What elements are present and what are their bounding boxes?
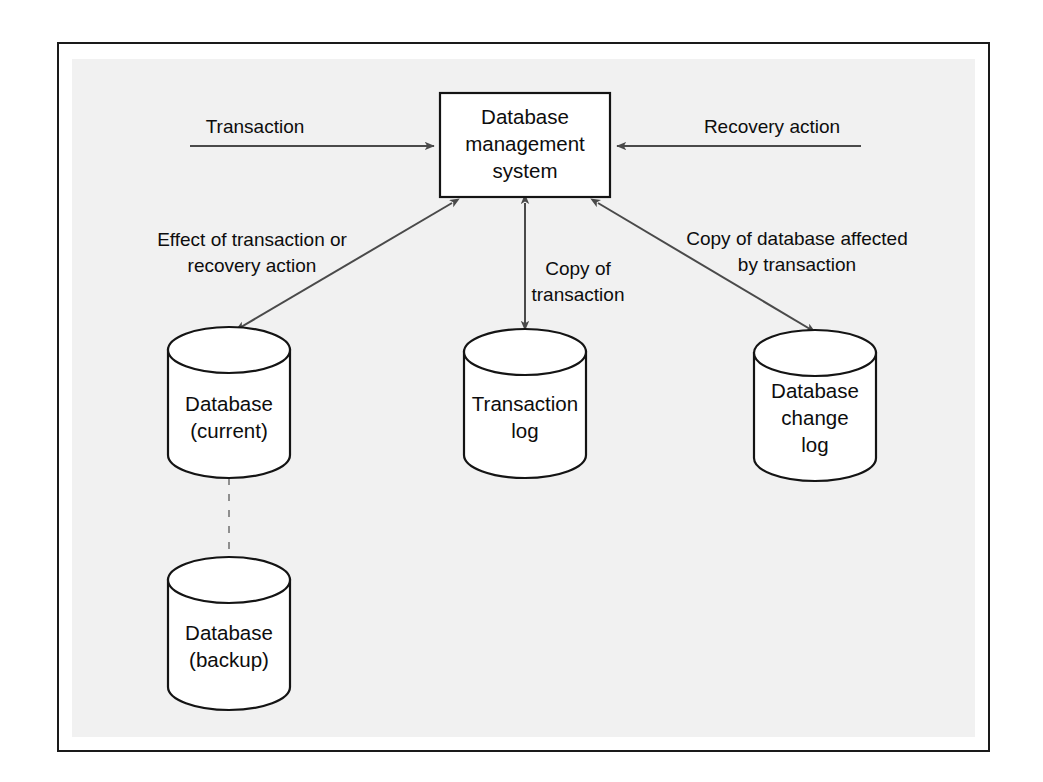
figure-canvas-background bbox=[72, 59, 975, 737]
figure-root: Database management system Database (cur… bbox=[0, 0, 1043, 782]
